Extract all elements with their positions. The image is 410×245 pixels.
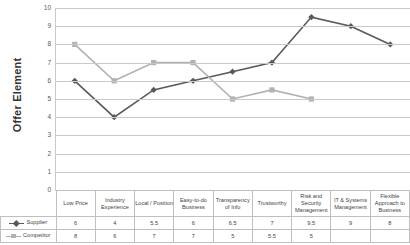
table-column-header: Industry Experience bbox=[95, 191, 134, 217]
legend-marker-icon bbox=[6, 233, 21, 240]
table-column-header: Local / Position bbox=[135, 191, 174, 217]
y-axis-tick-label: 10 bbox=[44, 5, 51, 12]
gridline bbox=[55, 135, 410, 136]
table-cell: 9 bbox=[331, 217, 370, 230]
y-axis-title-label: Offer Element bbox=[11, 58, 23, 133]
y-axis-tick-labels: 012345678910 bbox=[34, 8, 53, 190]
gridline bbox=[55, 99, 410, 100]
y-axis-tick-label: 2 bbox=[47, 150, 51, 157]
series-line-supplier bbox=[75, 17, 391, 117]
gridline bbox=[55, 154, 410, 155]
table-column-header: IT & Systems Management bbox=[331, 191, 370, 217]
y-axis-title: Offer Element bbox=[0, 0, 34, 190]
table-column-header: Flexible Approach to Business bbox=[370, 191, 409, 217]
table-cell: 6.5 bbox=[213, 217, 252, 230]
gridline bbox=[55, 44, 410, 45]
table-column-header: Trustworthy bbox=[252, 191, 291, 217]
table-cell: 5.5 bbox=[135, 217, 174, 230]
data-table: Low PriceIndustry ExperienceLocal / Posi… bbox=[0, 190, 410, 243]
table-body: Supplier645.566.579.598Competitor867755.… bbox=[1, 217, 410, 243]
gridline bbox=[55, 26, 410, 27]
y-axis-tick-label: 5 bbox=[47, 96, 51, 103]
data-point-competitor bbox=[269, 87, 274, 92]
table-cell bbox=[370, 230, 409, 243]
legend-symbol-square-icon bbox=[11, 234, 16, 239]
table-header-row: Low PriceIndustry ExperienceLocal / Posi… bbox=[1, 191, 410, 217]
gridline bbox=[55, 117, 410, 118]
table-cell: 8 bbox=[56, 230, 95, 243]
table-cell: 7 bbox=[135, 230, 174, 243]
y-axis-tick-label: 6 bbox=[47, 78, 51, 85]
table-column-header: Low Price bbox=[56, 191, 95, 217]
data-point-supplier bbox=[229, 69, 235, 75]
table-cell: 6 bbox=[56, 217, 95, 230]
y-axis-tick-label: 4 bbox=[47, 114, 51, 121]
gridline bbox=[55, 81, 410, 82]
table-cell: 5 bbox=[292, 230, 331, 243]
series-line-competitor bbox=[75, 44, 312, 99]
table-cell bbox=[331, 230, 370, 243]
gridline bbox=[55, 63, 410, 64]
y-axis-tick-label: 7 bbox=[47, 59, 51, 66]
gridline bbox=[55, 8, 410, 9]
legend-marker-icon bbox=[9, 220, 24, 227]
table-cell: 5 bbox=[213, 230, 252, 243]
chart-container: Offer Element 012345678910 Low PriceIndu… bbox=[0, 0, 410, 245]
table-column-header: Transparency of Info bbox=[213, 191, 252, 217]
legend-item-competitor[interactable]: Competitor bbox=[1, 230, 57, 243]
y-axis-tick-label: 1 bbox=[47, 169, 51, 176]
table-column-header: Risk and Security Management bbox=[292, 191, 331, 217]
legend-label: Competitor bbox=[23, 233, 50, 239]
table-row: Supplier645.566.579.598 bbox=[1, 217, 410, 230]
y-axis-tick-label: 3 bbox=[47, 132, 51, 139]
y-axis-tick-label: 8 bbox=[47, 41, 51, 48]
gridline bbox=[55, 172, 410, 173]
table-corner-cell bbox=[1, 191, 57, 217]
table-cell: 8 bbox=[370, 217, 409, 230]
table-cell: 5.5 bbox=[252, 230, 291, 243]
legend-item-supplier[interactable]: Supplier bbox=[1, 217, 57, 230]
table-cell: 6 bbox=[174, 217, 213, 230]
table-row: Competitor867755.55 bbox=[1, 230, 410, 243]
legend-label: Supplier bbox=[26, 220, 47, 226]
table-cell: 6 bbox=[95, 230, 134, 243]
plot-area bbox=[55, 8, 410, 190]
legend-symbol-diamond-icon bbox=[14, 220, 20, 226]
table-cell: 7 bbox=[174, 230, 213, 243]
table-cell: 4 bbox=[95, 217, 134, 230]
y-axis-tick-label: 9 bbox=[47, 23, 51, 30]
table-column-header: Easy-to-do Business bbox=[174, 191, 213, 217]
table-cell: 9.5 bbox=[292, 217, 331, 230]
table-cell: 7 bbox=[252, 217, 291, 230]
